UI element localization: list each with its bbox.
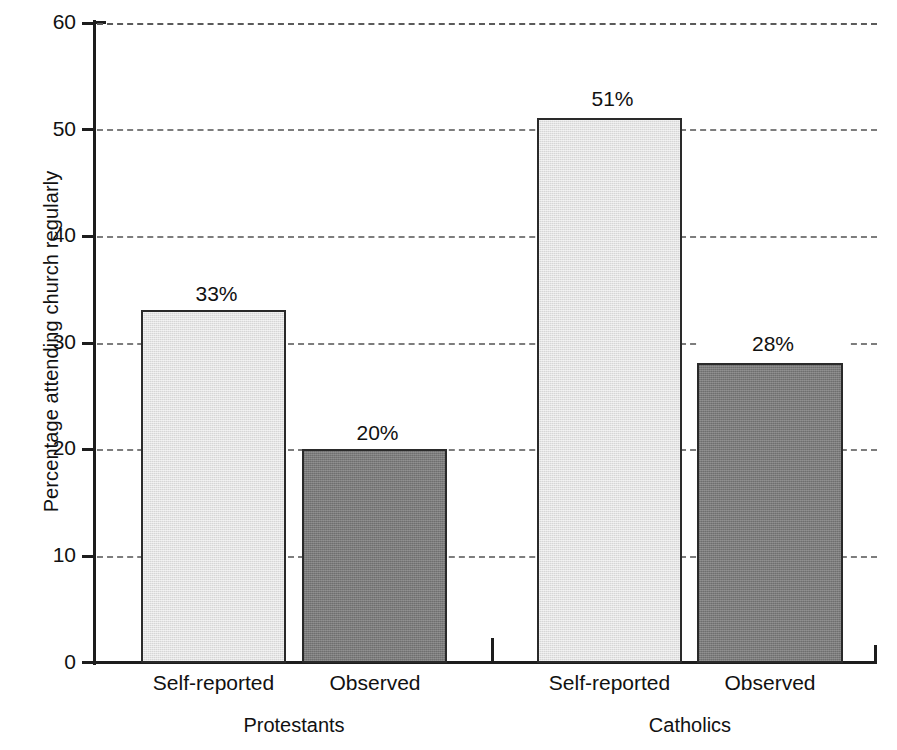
bar-protestants-self-reported[interactable] [141,310,286,663]
bar-value-label-protestants-self-reported: 33% [141,283,292,304]
group-label-protestants: Protestants [194,715,394,735]
x-label-protestants-observed: Observed [300,672,450,693]
bar-catholics-self-reported[interactable] [537,118,682,663]
bar-protestants-observed[interactable] [302,449,447,663]
bar-chart: Percentage attending church regularly 60… [0,0,897,750]
bar-value-label-protestants-observed: 20% [302,422,453,443]
x-label-catholics-self-reported: Self-reported [522,672,697,693]
bar-value-label-catholics-self-reported: 51% [537,88,688,109]
bar-value-label-catholics-observed: 28% [697,333,849,354]
bar-catholics-observed[interactable] [697,363,843,663]
x-label-catholics-observed: Observed [695,672,845,693]
x-label-protestants-self-reported: Self-reported [126,672,301,693]
group-label-catholics: Catholics [590,715,790,735]
